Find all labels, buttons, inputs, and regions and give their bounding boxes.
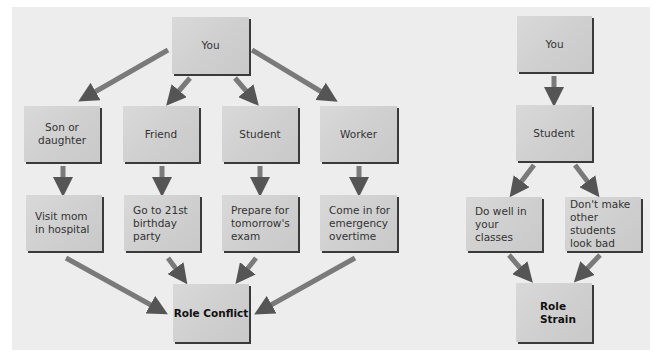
arrow-overtime-to-conflict bbox=[262, 258, 355, 310]
node-label: You bbox=[517, 16, 592, 72]
arrow-you-to-friend bbox=[172, 78, 190, 99]
arrow-you-to-worker bbox=[252, 50, 330, 97]
node-label: Come in for emergency overtime bbox=[320, 195, 397, 251]
arrow-exam-to-conflict bbox=[241, 258, 256, 277]
node-friend: Friend bbox=[123, 106, 199, 162]
node-label: Prepare for tomorrow's exam bbox=[222, 195, 298, 251]
node-role-conflict: Role Conflict bbox=[173, 284, 249, 342]
node-label: Son or daughter bbox=[24, 106, 100, 162]
node-label: Friend bbox=[123, 106, 199, 162]
node-label: Role Strain bbox=[516, 283, 592, 342]
node-prepare-exam: Prepare for tomorrow's exam bbox=[222, 195, 298, 251]
arrow-visit-to-conflict bbox=[66, 258, 160, 310]
arrow-you-to-student bbox=[235, 78, 253, 99]
node-worker: Worker bbox=[320, 106, 397, 162]
node-you-left: You bbox=[172, 17, 249, 74]
node-visit-mom: Visit mom in hospital bbox=[26, 195, 102, 251]
node-label: Role Conflict bbox=[173, 284, 249, 342]
node-label: Student bbox=[222, 106, 298, 162]
node-label: Worker bbox=[320, 106, 397, 162]
node-do-well: Do well in your classes bbox=[466, 197, 542, 251]
node-son-or-daughter: Son or daughter bbox=[24, 106, 100, 162]
node-label: Don't make other students look bad bbox=[565, 197, 641, 251]
node-birthday-party: Go to 21st birthday party bbox=[124, 195, 200, 251]
arrow-student-to-dontmake bbox=[575, 165, 594, 190]
arrow-dontmake-to-strain bbox=[580, 255, 600, 276]
node-role-strain: Role Strain bbox=[516, 283, 592, 342]
node-you-right: You bbox=[517, 16, 592, 72]
arrow-you-to-son bbox=[86, 50, 168, 97]
node-label: Do well in your classes bbox=[466, 197, 542, 251]
node-student-left: Student bbox=[222, 106, 298, 162]
node-emergency-overtime: Come in for emergency overtime bbox=[320, 195, 397, 251]
node-label: Go to 21st birthday party bbox=[124, 195, 200, 251]
node-label: Student bbox=[516, 105, 592, 161]
node-label: You bbox=[172, 17, 249, 74]
node-label: Visit mom in hospital bbox=[26, 195, 102, 251]
arrow-dowell-to-strain bbox=[509, 255, 527, 276]
arrow-student-to-dowell bbox=[515, 165, 534, 190]
arrow-party-to-conflict bbox=[168, 258, 182, 277]
node-student-right: Student bbox=[516, 105, 592, 161]
node-dont-make-look-bad: Don't make other students look bad bbox=[565, 197, 641, 251]
